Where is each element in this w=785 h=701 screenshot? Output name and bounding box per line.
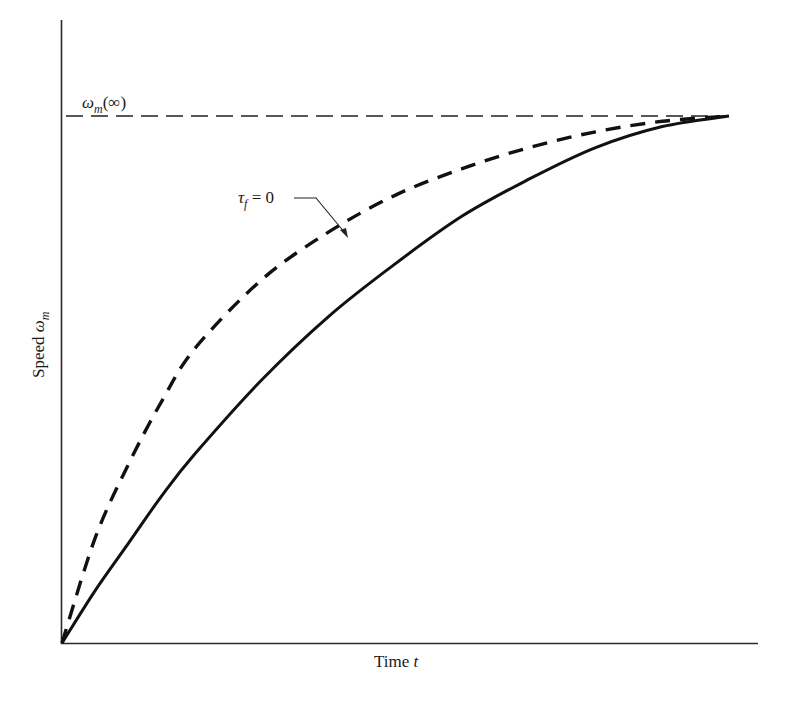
tau-f-label: τf = 0 — [238, 188, 274, 211]
y-axis-label: Speed ωm — [29, 311, 52, 378]
x-axis-label: Time t — [374, 652, 420, 671]
annotation-arrowhead-icon — [340, 228, 348, 238]
curve-tau-f-zero — [62, 116, 729, 643]
speed-vs-time-chart: ωm(∞) τf = 0 Time t Speed ωm — [0, 0, 785, 701]
asymptote-label: ωm(∞) — [82, 93, 126, 116]
